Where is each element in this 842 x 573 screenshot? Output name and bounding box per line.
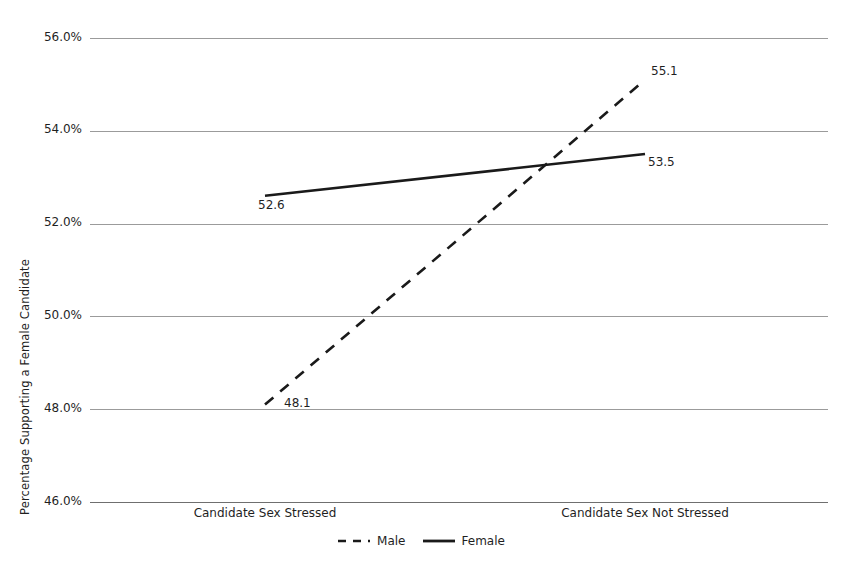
legend-label-female: Female — [462, 534, 505, 548]
point-label-male-right: 55.1 — [651, 64, 678, 78]
point-label-female-left: 52.6 — [258, 198, 285, 212]
series-layer — [0, 0, 842, 573]
legend-entry-male[interactable]: Male — [337, 534, 405, 548]
point-label-female-right: 53.5 — [648, 155, 675, 169]
line-chart-figure: Percentage Supporting a Female Candidate… — [0, 0, 842, 573]
point-label-male-left: 48.1 — [284, 396, 311, 410]
legend-swatch-dashed-icon — [337, 536, 371, 546]
x-category-label-stressed: Candidate Sex Stressed — [115, 506, 415, 520]
legend-label-male: Male — [377, 534, 405, 548]
legend-entry-female[interactable]: Female — [422, 534, 505, 548]
x-category-label-not-stressed: Candidate Sex Not Stressed — [495, 506, 795, 520]
series-line-male — [265, 80, 645, 405]
series-line-female — [265, 154, 645, 196]
chart-legend: Male Female — [0, 534, 842, 548]
legend-swatch-solid-icon — [422, 536, 456, 546]
